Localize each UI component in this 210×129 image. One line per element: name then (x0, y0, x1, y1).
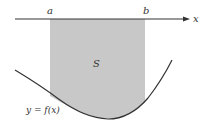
label-x-axis: x (193, 14, 199, 24)
area-diagram: a b x S y = f(x) (0, 0, 210, 129)
label-b: b (143, 6, 149, 16)
x-axis-arrow-icon (183, 17, 190, 22)
label-curve: y = f(x) (26, 105, 60, 115)
label-a: a (47, 6, 53, 16)
label-region-s: S (93, 59, 100, 69)
